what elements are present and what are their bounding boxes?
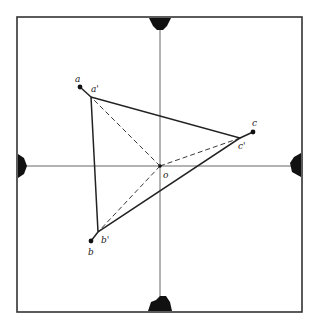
dashed-ray-c-prime — [160, 138, 240, 166]
label-a-prime: a' — [91, 84, 99, 94]
dashed-ray-b-prime — [98, 166, 160, 232]
dashed-ray-a-prime — [91, 97, 160, 166]
label-b: b — [88, 247, 94, 257]
triangle-abc-prime — [91, 97, 240, 232]
right-marker — [290, 153, 301, 177]
point-a — [78, 85, 83, 90]
label-c-prime: c' — [238, 141, 246, 151]
label-b-prime: b' — [101, 235, 109, 245]
label-a: a — [75, 74, 80, 84]
label-origin: o — [163, 170, 169, 180]
point-c — [251, 130, 256, 135]
left-marker — [18, 154, 27, 178]
label-c: c — [252, 118, 257, 128]
point-origin — [158, 164, 162, 168]
point-b — [89, 239, 94, 244]
diagram-canvas: a a' b b' c c' o — [0, 0, 318, 327]
top-marker — [149, 18, 171, 30]
bottom-marker — [148, 296, 172, 311]
